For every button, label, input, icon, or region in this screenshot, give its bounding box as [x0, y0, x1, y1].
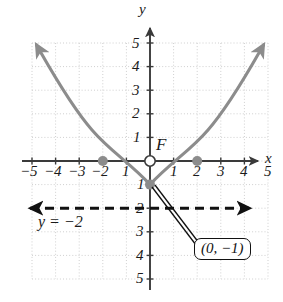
point-focus-open-circle: [145, 156, 155, 166]
x-tick-label--4: −4: [44, 164, 62, 179]
vertex-callout-box: (0, −1): [194, 238, 251, 260]
y-axis-label: y: [139, 2, 146, 17]
parabola-graph-figure: y x −5 −4 −3 −2 1 1 2 3 4 5 5 4 3 2 1 1 …: [0, 0, 283, 302]
y-tick-label--1: 1: [137, 177, 145, 192]
directrix-equation-label: y = −2: [38, 214, 83, 230]
x-tick-label--5: −5: [20, 164, 38, 179]
y-tick-label--4: 4: [136, 248, 144, 263]
x-tick-label--3: −3: [68, 164, 86, 179]
x-tick-label-3: 3: [217, 164, 225, 179]
focus-label: F: [156, 136, 166, 153]
x-tick-label-5: 5: [264, 164, 272, 179]
y-tick-label-5: 5: [132, 36, 140, 51]
y-tick-label--3: 3: [136, 224, 144, 239]
y-tick-label-1: 1: [133, 130, 141, 145]
x-tick-label-2: 2: [193, 164, 201, 179]
y-tick-label-3: 3: [132, 83, 140, 98]
y-tick-label-4: 4: [132, 59, 140, 74]
y-tick-label-2: 2: [132, 106, 140, 121]
y-tick-label--2: 2: [136, 201, 144, 216]
callout-leader-lines: [152, 185, 199, 245]
y-tick-label--5: 5: [136, 271, 144, 286]
x-tick-label-4: 4: [240, 164, 248, 179]
x-tick-label--2: −2: [91, 164, 109, 179]
x-tick-label--1: 1: [122, 164, 130, 179]
x-tick-label-1: 1: [170, 164, 178, 179]
